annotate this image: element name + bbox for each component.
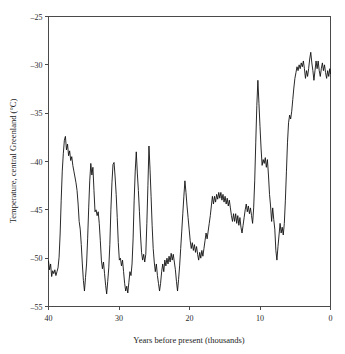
y-tick-label: –30 [30, 61, 43, 70]
x-tick-label: 0 [329, 314, 333, 323]
y-tick-label: –40 [30, 158, 43, 167]
y-tick-label: –35 [30, 109, 43, 118]
x-tick-label: 30 [115, 314, 123, 323]
x-tick-label: 40 [45, 314, 53, 323]
x-tick-label: 10 [256, 314, 264, 323]
temperature-series-line [49, 52, 331, 294]
y-axis-title: Temperature, central Greenland (°C) [8, 99, 18, 224]
axis-frame [49, 17, 331, 307]
figure-container: –25–30–35–40–45–50–55 403020100 Years be… [0, 0, 345, 354]
y-axis-ticks: –25–30–35–40–45–50–55 [30, 13, 49, 312]
y-tick-label: –25 [30, 13, 43, 22]
temperature-line-chart: –25–30–35–40–45–50–55 403020100 Years be… [0, 0, 345, 354]
y-tick-label: –45 [30, 206, 43, 215]
x-axis-title: Years before present (thousands) [133, 335, 244, 345]
x-tick-label: 20 [186, 314, 194, 323]
y-tick-label: –55 [30, 303, 43, 312]
y-tick-label: –50 [30, 254, 43, 263]
x-axis-ticks: 403020100 [45, 307, 333, 323]
